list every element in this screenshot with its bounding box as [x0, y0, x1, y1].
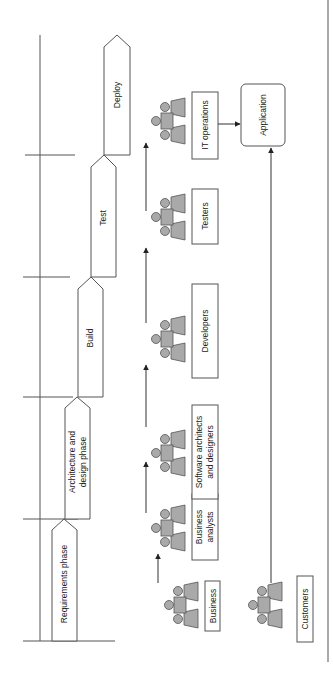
role-testers: Testers [152, 189, 219, 244]
role-software-architects-label-line1: Software architects [194, 416, 204, 488]
role-business-analysts-label-line2: analysts [205, 511, 215, 542]
people-icon [152, 505, 186, 551]
application-node: Application [241, 84, 285, 146]
application-label: Application [258, 94, 268, 136]
role-business-label: Business [208, 589, 218, 624]
role-developers: Developers [152, 284, 219, 378]
phase-test-label: Test [98, 210, 108, 226]
phase-architecture-label-line2: design phase [78, 436, 88, 487]
people-icon [152, 430, 186, 476]
role-business: Business [165, 581, 221, 631]
phase-requirements: Requirements phase [52, 519, 77, 641]
phase-deploy: Deploy [104, 35, 130, 155]
people-icon [249, 582, 283, 628]
phase-deploy-label: Deploy [112, 81, 122, 108]
role-testers-label: Testers [200, 202, 210, 229]
phase-build-label: Build [85, 328, 95, 347]
lifecycle-diagram: Requirements phase Architecture and desi… [0, 0, 333, 676]
people-icon [152, 98, 186, 144]
phase-test: Test [91, 155, 116, 277]
phase-architecture-label-line1: Architecture and [67, 431, 77, 493]
role-software-architects-label-line2: and designers [205, 425, 215, 478]
role-software-architects: Software architects and designers [152, 405, 219, 499]
role-customers-label: Customers [300, 588, 310, 629]
phase-architecture: Architecture and design phase [65, 397, 90, 519]
role-business-analysts: Business analysts [152, 494, 219, 560]
role-customers: Customers [249, 576, 314, 642]
people-icon [152, 316, 186, 362]
role-business-analysts-label-line1: Business [194, 510, 204, 545]
role-it-operations-label: IT operations [200, 100, 210, 149]
phase-requirements-label: Requirements phase [59, 545, 69, 624]
role-developers-label: Developers [200, 310, 210, 353]
role-it-operations: IT operations [152, 92, 219, 159]
people-icon [152, 194, 186, 240]
phase-build: Build [78, 277, 103, 397]
people-icon [165, 582, 199, 628]
